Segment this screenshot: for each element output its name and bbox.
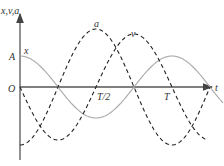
amplitude-label: A <box>8 51 16 62</box>
half-period-label: T/2 <box>97 91 110 102</box>
y-axis-label: x,v,a <box>0 5 19 16</box>
t-axis-label: t <box>215 82 218 93</box>
a-curve-label: a <box>94 18 99 29</box>
xva-diagram: x,v,a t O A T/2 T x v a <box>0 0 224 166</box>
x-curve-label: x <box>23 45 29 56</box>
origin-label: O <box>8 83 15 94</box>
v-curve-label: v <box>131 28 136 39</box>
period-label: T <box>164 91 171 102</box>
